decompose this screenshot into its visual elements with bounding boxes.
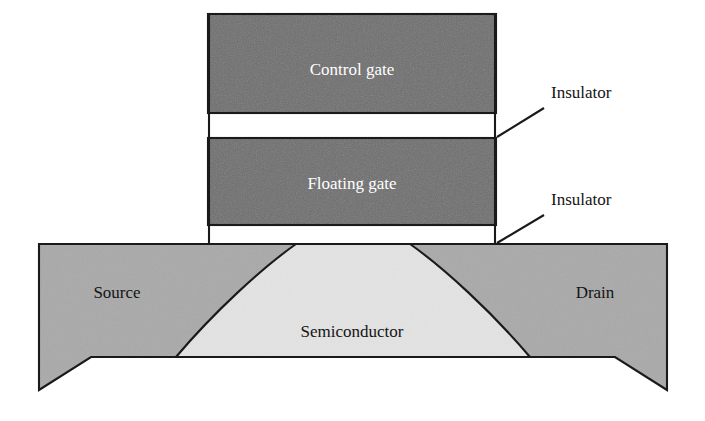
substrate-group — [39, 244, 667, 390]
insulator-lower-leader-line — [497, 215, 544, 243]
drain-label: Drain — [576, 283, 615, 302]
source-label: Source — [93, 283, 140, 302]
callout-leaders-group — [497, 108, 544, 243]
floating-gate-transistor-diagram: Control gate Floating gate Source Drain … — [0, 0, 705, 421]
floating-gate-label: Floating gate — [307, 174, 396, 193]
insulator-upper-leader-line — [497, 108, 544, 137]
upper-insulator-layer — [208, 113, 496, 138]
control-gate-label: Control gate — [310, 60, 395, 79]
insulator-upper-label: Insulator — [551, 83, 612, 102]
insulator-lower-label: Insulator — [551, 190, 612, 209]
semiconductor-label: Semiconductor — [301, 322, 404, 341]
gate-stack-group — [208, 14, 496, 245]
diagram-canvas: Control gate Floating gate Source Drain … — [0, 0, 705, 421]
lower-insulator-layer — [208, 225, 496, 244]
